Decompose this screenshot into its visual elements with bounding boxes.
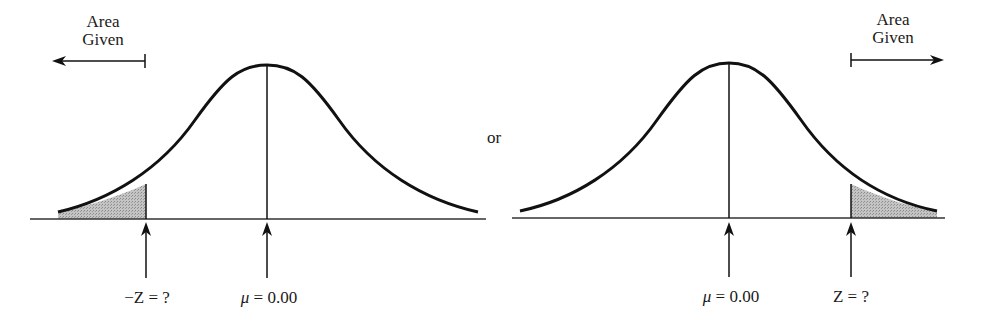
right-normal-curve-panel <box>512 53 945 277</box>
right-area-label-line1: Area <box>853 11 933 29</box>
right-area-given-arrow-icon <box>851 53 944 67</box>
left-area-given-arrow-icon <box>52 54 145 68</box>
right-mean-label: μ = 0.00 <box>684 288 778 306</box>
right-z-label: Z = ? <box>816 288 886 306</box>
or-separator: or <box>482 129 506 147</box>
right-shaded-tail-area <box>851 184 937 218</box>
diagram-canvas <box>0 0 993 328</box>
left-bell-curve <box>58 65 478 212</box>
left-shaded-tail-area <box>58 184 146 219</box>
mean-value: = 0.00 <box>711 287 759 306</box>
mean-value: = 0.00 <box>249 288 297 307</box>
left-area-given-label: Area Given <box>63 13 143 49</box>
left-z-arrow-icon <box>141 222 151 278</box>
left-mean-arrow-icon <box>262 222 272 278</box>
left-normal-curve-panel <box>30 54 486 278</box>
left-mean-label: μ = 0.00 <box>222 289 316 307</box>
left-area-label-line2: Given <box>63 31 143 49</box>
left-neg-z-label: −Z = ? <box>107 289 187 307</box>
left-area-label-line1: Area <box>63 13 143 31</box>
right-z-arrow-icon <box>846 222 856 277</box>
right-area-label-line2: Given <box>853 29 933 47</box>
right-area-given-label: Area Given <box>853 11 933 47</box>
right-mean-arrow-icon <box>724 222 734 277</box>
